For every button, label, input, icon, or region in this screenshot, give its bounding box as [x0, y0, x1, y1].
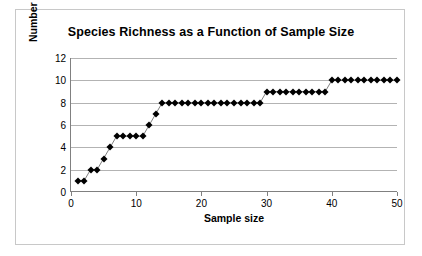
x-tick-mark — [332, 192, 333, 196]
y-tick-label: 10 — [55, 75, 66, 86]
x-tick-label: 10 — [131, 198, 142, 209]
y-axis-label: Number of species — [27, 0, 39, 60]
y-tick-label: 12 — [55, 53, 66, 64]
x-tick-label: 20 — [196, 198, 207, 209]
y-tick-label: 2 — [60, 164, 66, 175]
x-tick-label: 40 — [326, 198, 337, 209]
x-tick-label: 50 — [391, 198, 402, 209]
x-tick-mark — [267, 192, 268, 196]
x-tick-label: 0 — [68, 198, 74, 209]
x-tick-mark — [201, 192, 202, 196]
y-tick-label: 4 — [60, 142, 66, 153]
chart-frame: Species Richness as a Function of Sample… — [15, 9, 405, 245]
x-axis-label: Sample size — [71, 212, 397, 224]
y-tick-label: 8 — [60, 97, 66, 108]
x-tick-mark — [71, 192, 72, 196]
x-tick-mark — [397, 192, 398, 196]
y-tick-label: 6 — [60, 120, 66, 131]
chart-title: Species Richness as a Function of Sample… — [16, 25, 406, 39]
y-tick-label: 0 — [60, 187, 66, 198]
x-tick-label: 30 — [261, 198, 272, 209]
x-tick-mark — [136, 192, 137, 196]
plot-area: 024681012 01020304050 — [71, 58, 397, 192]
